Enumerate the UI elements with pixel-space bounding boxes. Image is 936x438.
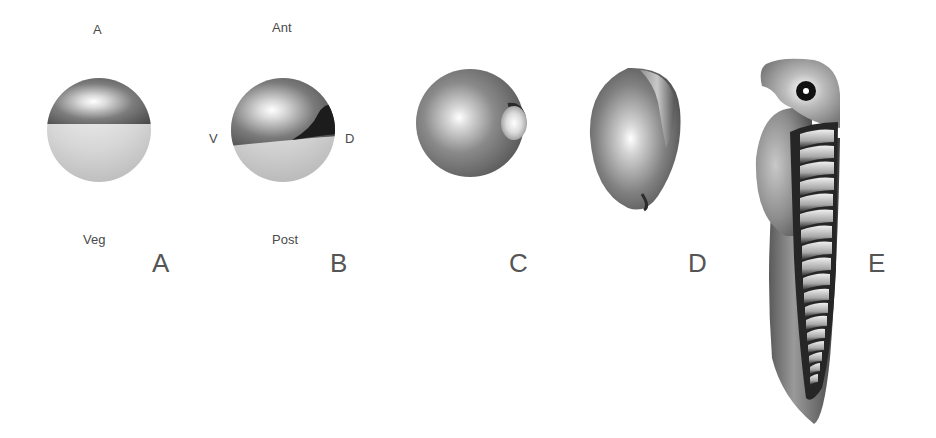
embryo-e-illustration	[752, 58, 848, 428]
panel-b-right-label: D	[345, 132, 354, 145]
panel-c-letter: C	[509, 250, 528, 276]
embryo-d-illustration	[588, 66, 684, 212]
panel-b-top-label: Ant	[272, 21, 292, 34]
egg-a-illustration	[44, 74, 154, 186]
panel-b-left-label: V	[209, 132, 218, 145]
egg-b-illustration	[228, 74, 338, 186]
embryo-c-illustration	[416, 67, 528, 179]
panel-a-letter: A	[152, 250, 169, 276]
panel-b-letter: B	[330, 250, 347, 276]
panel-e-letter: E	[868, 250, 885, 276]
panel-b-bottom-label: Post	[272, 233, 298, 246]
panel-a-bottom-label: Veg	[83, 233, 105, 246]
panel-d-letter: D	[688, 250, 707, 276]
panel-a-top-label: A	[93, 23, 102, 36]
